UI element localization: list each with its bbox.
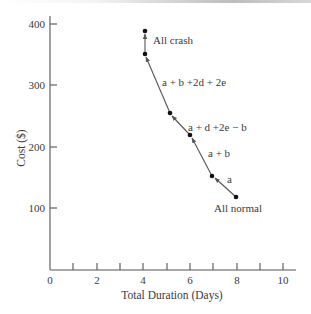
x-ticks: 0 2 4 6 8 10 — [47, 263, 289, 286]
x-tick-4: 4 — [140, 274, 146, 286]
x-axis-title: Total Duration (Days) — [121, 289, 223, 302]
tradeoff-path — [145, 34, 236, 197]
x-tick-2: 2 — [94, 274, 100, 286]
point-7 — [210, 174, 215, 179]
y-tick-400: 400 — [29, 18, 46, 30]
y-tick-100: 100 — [29, 202, 46, 214]
annotations: All crash a + b +2d + 2e a + d +2e − b a… — [153, 34, 262, 214]
point-all-crash — [143, 29, 148, 34]
label-ad2eb: a + d +2e − b — [188, 121, 247, 133]
point-all-normal — [234, 195, 239, 200]
time-cost-chart: 400 300 200 100 0 2 4 6 8 10 Total Durat… — [0, 0, 311, 314]
x-tick-6: 6 — [187, 274, 193, 286]
y-ticks: 400 300 200 100 — [29, 18, 58, 214]
data-points — [143, 29, 239, 200]
label-ab: a + b — [208, 147, 231, 159]
y-tick-300: 300 — [29, 79, 46, 91]
point-4-350 — [143, 52, 148, 57]
x-tick-10: 10 — [278, 274, 290, 286]
label-all-crash: All crash — [153, 34, 194, 46]
y-axis-title: Cost ($) — [15, 129, 28, 167]
x-tick-0: 0 — [47, 274, 53, 286]
label-ab2d2e: a + b +2d + 2e — [162, 76, 226, 88]
axes — [50, 16, 296, 270]
label-all-normal: All normal — [214, 202, 262, 214]
segment-a — [215, 178, 236, 197]
x-tick-8: 8 — [234, 274, 240, 286]
point-6 — [188, 133, 193, 138]
point-5 — [168, 111, 173, 116]
label-a: a — [227, 173, 232, 185]
y-tick-200: 200 — [29, 141, 46, 153]
